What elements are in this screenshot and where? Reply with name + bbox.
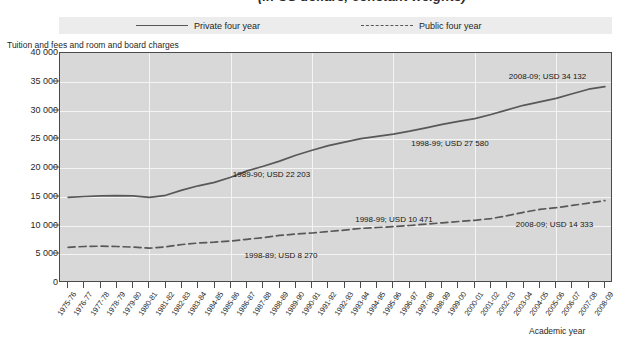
- y-axis-tick-mark: [53, 224, 59, 225]
- y-axis-tick-label: 30 000: [2, 105, 58, 115]
- data-annotation: 2008-09; USD 34 132: [509, 72, 586, 81]
- y-axis-tick-mark: [53, 138, 59, 139]
- x-axis-tick-mark: [148, 282, 149, 288]
- x-axis-tick-mark: [523, 282, 524, 288]
- series-line-private-four-year: [68, 87, 605, 198]
- x-axis-tick-mark: [506, 282, 507, 288]
- x-axis-tick-mark: [490, 282, 491, 288]
- x-axis-tick-mark: [376, 282, 377, 288]
- y-axis-tick-label: 5 000: [2, 248, 58, 258]
- x-axis-tick-mark: [457, 282, 458, 288]
- x-axis-tick-mark: [360, 282, 361, 288]
- plot-inner: [60, 53, 611, 281]
- x-axis-tick-mark: [132, 282, 133, 288]
- chart-legend: Private four year Public four year: [59, 17, 612, 34]
- x-axis-tick-mark: [441, 282, 442, 288]
- data-annotation: 1989-90; USD 22 203: [233, 170, 310, 179]
- x-axis-tick-mark: [539, 282, 540, 288]
- y-axis-tick-mark: [53, 109, 59, 110]
- y-axis-tick-label: 10 000: [2, 220, 58, 230]
- data-annotation: 2008-09; USD 14 333: [516, 220, 593, 229]
- x-axis-tick-mark: [262, 282, 263, 288]
- y-axis-tick-label: 35 000: [2, 76, 58, 86]
- plot-area: [59, 52, 612, 282]
- x-axis-tick-mark: [588, 282, 589, 288]
- x-axis-tick-mark: [555, 282, 556, 288]
- legend-label-private: Private four year: [194, 21, 260, 31]
- x-axis-tick-mark: [246, 282, 247, 288]
- chart-title-text: (in US dollars, constant weights): [258, 0, 466, 4]
- line-solid-icon: [136, 21, 188, 30]
- legend-item-public-four-year[interactable]: Public four year: [361, 17, 482, 34]
- x-axis-tick-mark: [279, 282, 280, 288]
- data-annotation: 1998-99; USD 10 471: [355, 215, 432, 224]
- legend-item-private-four-year[interactable]: Private four year: [136, 17, 260, 34]
- y-axis-tick-mark: [53, 80, 59, 81]
- y-axis-tick-mark: [53, 195, 59, 196]
- x-axis-tick-mark: [344, 282, 345, 288]
- x-axis-tick-mark: [604, 282, 605, 288]
- data-annotation: 1998-99; USD 27 580: [411, 139, 488, 148]
- x-axis-tick-mark: [230, 282, 231, 288]
- x-axis-tick-mark: [392, 282, 393, 288]
- line-dashed-icon: [361, 21, 413, 30]
- data-annotation: 1998-89; USD 8 270: [245, 251, 318, 260]
- x-axis-caption: Academic year: [529, 326, 585, 336]
- y-axis-tick-label: 0: [2, 277, 58, 287]
- x-axis-tick-mark: [165, 282, 166, 288]
- y-axis-tick-mark: [53, 167, 59, 168]
- x-axis-tick-mark: [311, 282, 312, 288]
- x-axis-tick-mark: [571, 282, 572, 288]
- y-axis-tick-label: 40 000: [2, 47, 58, 57]
- x-axis-tick-mark: [327, 282, 328, 288]
- series-layer: [60, 53, 611, 281]
- x-axis-tick-mark: [197, 282, 198, 288]
- x-axis-tick-mark: [100, 282, 101, 288]
- legend-label-public: Public four year: [419, 21, 482, 31]
- x-axis-tick-mark: [214, 282, 215, 288]
- y-axis-tick-label: 15 000: [2, 191, 58, 201]
- y-axis-tick-label: 20 000: [2, 162, 58, 172]
- x-axis-tick-mark: [409, 282, 410, 288]
- x-axis-tick-mark: [181, 282, 182, 288]
- x-axis-tick-mark: [474, 282, 475, 288]
- x-axis-tick-mark: [67, 282, 68, 288]
- x-axis-tick-mark: [83, 282, 84, 288]
- chart-title-clipped: (in US dollars, constant weights): [0, 0, 626, 13]
- x-axis-tick-mark: [116, 282, 117, 288]
- x-axis-tick-mark: [425, 282, 426, 288]
- y-axis-tick-mark: [53, 253, 59, 254]
- x-axis-tick-mark: [295, 282, 296, 288]
- y-axis-tick-label: 25 000: [2, 133, 58, 143]
